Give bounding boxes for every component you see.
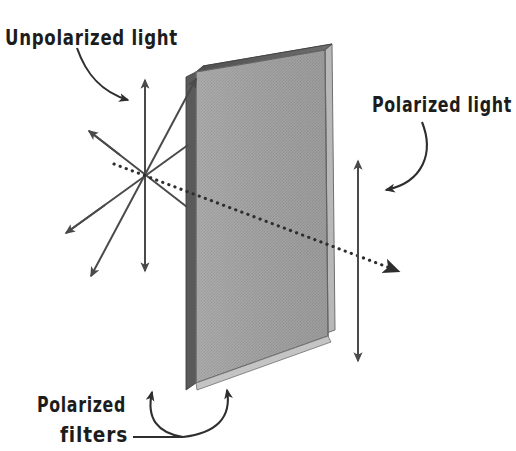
unpolarized-callout-arrow [77,48,128,100]
diagram-canvas: Unpolarized light Polarized light Polari… [0,0,516,451]
label-polarized-filters-line1: Polarized [37,393,126,417]
label-polarized-filters-line2: filters [60,423,128,447]
unpolarized-ray-burst [66,79,196,276]
filter-left-edge [186,72,196,390]
polarization-diagram: Unpolarized light Polarized light Polari… [0,0,516,451]
callout-unpolarized [77,48,128,100]
label-polarized-light: Polarized light [372,93,512,117]
ray-diagonal-shallow-head [89,131,120,155]
polarized-callout-arrow [386,122,427,190]
callout-filters [133,390,228,437]
callout-polarized [386,122,427,190]
filter-face-texture [196,50,328,383]
filters-callout-arrow-right [183,390,228,437]
filters-callout-arrow-left [150,392,183,437]
label-unpolarized-light: Unpolarized light [5,26,178,50]
polarizing-filter-panel [186,44,335,390]
ray-lower-left-head [66,205,105,233]
